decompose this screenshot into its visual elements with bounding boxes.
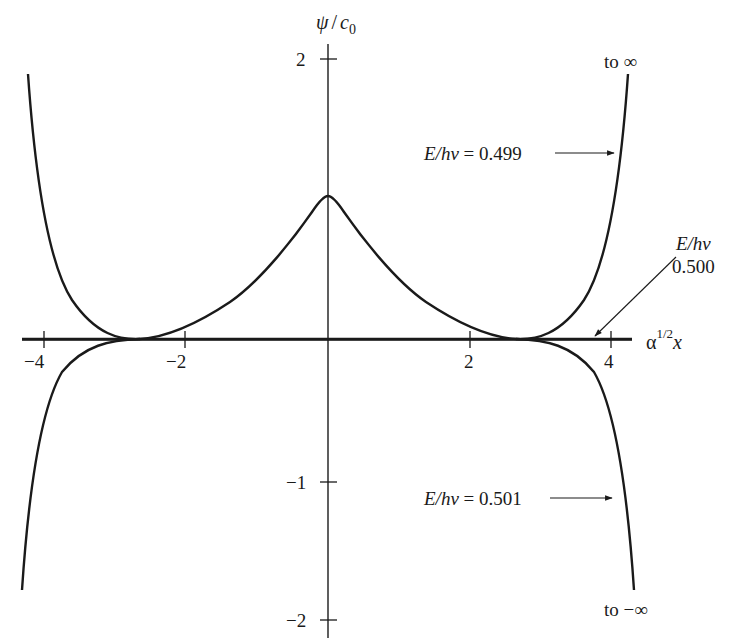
y-tick-label-2: 2 <box>296 50 306 69</box>
x-label-sup: 1/2 <box>656 326 673 341</box>
chart-canvas <box>0 0 740 642</box>
x-tick-label-4: 4 <box>604 352 614 371</box>
y-label-c: c <box>340 11 349 33</box>
curve-0501-right <box>516 339 634 590</box>
annotation-e-0500: E/hν 0.500 <box>672 233 715 279</box>
y-tick-label-m2: −2 <box>286 611 306 630</box>
y-label-slash: / <box>331 11 337 33</box>
annotation-to-infinity: to ∞ <box>604 52 637 71</box>
annotation-to-minus-infinity: to −∞ <box>604 600 648 619</box>
e0500-symbol: E/hν <box>672 233 715 256</box>
y-label-psi: ψ <box>316 11 328 33</box>
e0500-value: 0.500 <box>672 256 715 279</box>
x-tick-label-m4: −4 <box>24 352 44 371</box>
annotation-e-0501: E/hν = 0.501 <box>424 489 522 508</box>
e0501-value: = 0.501 <box>464 488 522 509</box>
arrow-0500 <box>595 257 676 336</box>
y-tick-label-m1: −1 <box>286 473 306 492</box>
x-tick-label-2: 2 <box>464 352 474 371</box>
x-label-x: x <box>673 331 682 353</box>
y-axis-label: ψ/c0 <box>316 12 356 37</box>
y-label-sub: 0 <box>349 22 356 37</box>
annotation-e-0499: E/hν = 0.499 <box>424 144 522 163</box>
e0499-symbol: E/hν <box>424 143 459 164</box>
e0499-value: = 0.499 <box>464 143 522 164</box>
x-tick-label-m2: −2 <box>166 352 186 371</box>
curve-0501 <box>22 339 140 590</box>
x-label-alpha: α <box>646 331 656 353</box>
x-axis-label: α1/2x <box>646 330 682 352</box>
e0501-symbol: E/hν <box>424 488 459 509</box>
